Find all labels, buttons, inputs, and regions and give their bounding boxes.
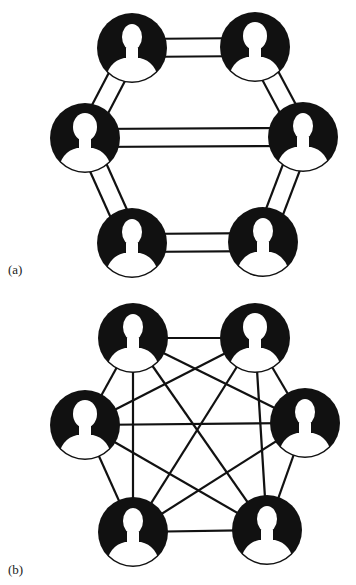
person-node-a-ml: [50, 103, 120, 178]
edges-layer: [77, 38, 312, 532]
person-node-b-br: [232, 495, 302, 570]
person-node-b-bl: [98, 497, 168, 572]
person-node-a-bl: [97, 208, 167, 283]
person-node-b-mr: [270, 388, 340, 463]
person-node-b-tl: [98, 303, 168, 378]
person-node-a-br: [228, 207, 298, 282]
person-node-b-ml: [50, 390, 120, 465]
panel-b-label: (b): [8, 562, 23, 578]
network-diagram: [0, 0, 356, 585]
panel-a-label: (a): [8, 262, 22, 278]
person-node-a-mr: [268, 102, 338, 177]
person-node-b-tr: [220, 303, 290, 378]
